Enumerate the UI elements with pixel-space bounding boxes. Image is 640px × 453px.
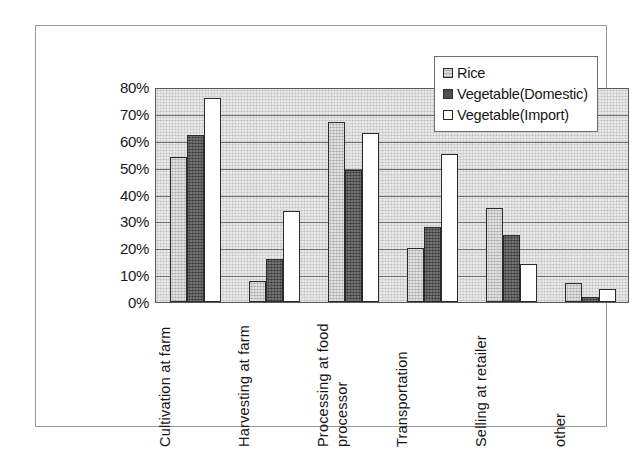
legend-item[interactable]: Rice: [443, 62, 588, 83]
bar-group: [156, 89, 235, 302]
y-axis-tick-label: 40%: [97, 187, 149, 204]
bar: [362, 133, 379, 302]
x-axis-label-group: Transportation: [392, 307, 471, 447]
y-axis-tick-label: 60%: [97, 133, 149, 150]
y-axis: 80%70%60%50%40%30%20%10%0%: [91, 88, 149, 303]
x-axis: Cultivation at farmHarvesting at farmPro…: [155, 307, 629, 447]
bar: [565, 283, 582, 302]
bar: [520, 264, 537, 302]
x-axis-tick-label: Harvesting at farm: [236, 325, 252, 447]
y-axis-tick-label: 30%: [97, 213, 149, 230]
bar: [582, 297, 599, 302]
legend-item[interactable]: Vegetable(Domestic): [443, 83, 588, 104]
y-axis-tick-label: 20%: [97, 240, 149, 257]
legend-item[interactable]: Vegetable(Import): [443, 104, 588, 125]
x-axis-tick-label: Selling at retailer: [473, 335, 489, 447]
y-axis-tick-label: 0%: [97, 294, 149, 311]
y-axis-tick-label: 70%: [97, 106, 149, 123]
bar: [486, 208, 503, 302]
bar: [170, 157, 187, 302]
legend-swatch-icon: [443, 89, 453, 99]
legend-swatch-icon: [443, 110, 453, 120]
x-axis-label-group: other: [550, 307, 629, 447]
bar: [424, 227, 441, 302]
x-axis-label-group: Harvesting at farm: [234, 307, 313, 447]
bar: [328, 122, 345, 302]
bar: [407, 248, 424, 302]
bar: [204, 98, 221, 302]
x-axis-label-group: Selling at retailer: [471, 307, 550, 447]
x-axis-label-group: Processing at foodprocessor: [313, 307, 392, 447]
x-axis-tick-label: Transportation: [394, 351, 410, 447]
bar-group: [314, 89, 393, 302]
bar: [503, 235, 520, 302]
bar: [345, 170, 362, 302]
bar: [187, 135, 204, 302]
bar: [283, 211, 300, 302]
chart-legend: RiceVegetable(Domestic)Vegetable(Import): [434, 56, 598, 132]
legend-item-label: Vegetable(Domestic): [457, 86, 588, 102]
y-axis-tick-label: 80%: [97, 79, 149, 96]
x-axis-label-group: Cultivation at farm: [155, 307, 234, 447]
x-axis-tick-label: other: [552, 413, 568, 447]
x-axis-tick-label: Processing at food: [315, 323, 331, 447]
legend-item-label: Rice: [457, 65, 485, 81]
x-axis-tick-label: processor: [334, 382, 350, 447]
bar-group: [235, 89, 314, 302]
bar: [441, 154, 458, 302]
bar: [266, 259, 283, 302]
figure-frame: 80%70%60%50%40%30%20%10%0% RiceVegetable…: [35, 25, 607, 427]
x-axis-tick-label: Cultivation at farm: [157, 326, 173, 447]
legend-swatch-icon: [443, 68, 453, 78]
legend-item-label: Vegetable(Import): [457, 107, 569, 123]
y-axis-tick-label: 50%: [97, 160, 149, 177]
bar: [249, 281, 266, 303]
bar: [599, 289, 616, 302]
y-axis-tick-label: 10%: [97, 267, 149, 284]
